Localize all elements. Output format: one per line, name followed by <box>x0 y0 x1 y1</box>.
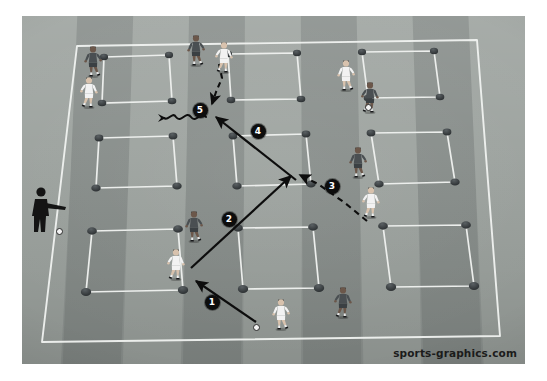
ball-at-passer-feet <box>253 324 260 331</box>
cone-icon <box>81 288 91 296</box>
player-white-top-centre <box>211 40 237 74</box>
cone-icon <box>178 286 188 294</box>
player-white-passer <box>268 297 294 331</box>
cone-icon <box>293 50 301 56</box>
cone-icon <box>378 222 388 229</box>
player-dark-top-centre <box>183 33 209 67</box>
player-dark-mid-right <box>345 145 371 179</box>
cone-icon <box>430 48 438 54</box>
cone-icon <box>308 223 318 230</box>
cone-grid <box>86 51 474 292</box>
step-marker-1: 1 <box>205 295 220 310</box>
cone-icon <box>95 135 104 142</box>
cone-icon <box>314 284 324 292</box>
player-dark-mid-centre <box>181 209 207 243</box>
cone-icon <box>469 282 479 290</box>
grid-square <box>228 53 301 100</box>
cone-icon <box>461 221 471 228</box>
diagram-canvas: 12345 sports-graphics.com <box>0 0 547 381</box>
cone-markers <box>81 48 479 296</box>
player-white-top-left <box>76 75 102 109</box>
step-marker-5: 5 <box>193 103 208 118</box>
cone-icon <box>443 129 452 136</box>
player-white-mid-right <box>358 185 384 219</box>
step-marker-3: 3 <box>325 179 340 194</box>
cone-icon <box>172 182 181 189</box>
cone-icon <box>358 49 366 55</box>
player-white-top-right <box>333 58 359 92</box>
grid-square <box>371 132 455 184</box>
grid-square <box>383 225 474 287</box>
cone-icon <box>436 94 445 101</box>
cone-icon <box>386 283 396 291</box>
ball-at-coach-feet <box>56 228 63 235</box>
grid-square <box>238 227 319 289</box>
cone-icon <box>165 52 173 58</box>
cone-icon <box>168 98 177 105</box>
cone-icon <box>227 97 236 104</box>
watermark: sports-graphics.com <box>393 347 517 359</box>
cone-icon <box>91 184 100 191</box>
ball-top-right <box>365 104 372 111</box>
cone-icon <box>302 131 311 138</box>
cone-icon <box>232 182 241 189</box>
grid-square <box>96 136 177 188</box>
cone-icon <box>169 133 178 140</box>
cone-icon <box>87 227 97 234</box>
player-dark-top-left <box>80 44 106 78</box>
coach-silhouette <box>32 187 66 232</box>
cone-icon <box>450 178 459 185</box>
player-dark-bottom-centre <box>330 285 356 319</box>
step-marker-4: 4 <box>251 124 266 139</box>
player-white-receiver <box>163 247 189 281</box>
cone-icon <box>367 130 376 137</box>
grid-square <box>102 55 172 103</box>
cone-icon <box>238 285 248 293</box>
step-marker-2: 2 <box>222 212 237 227</box>
cone-icon <box>297 96 306 103</box>
